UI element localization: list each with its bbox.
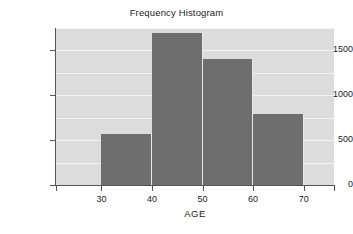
x-axis-end-tick bbox=[56, 185, 57, 191]
x-tick-mark bbox=[304, 185, 305, 191]
x-axis-title: AGE bbox=[56, 208, 334, 219]
x-tick-label: 60 bbox=[233, 194, 273, 204]
y-tick-label: 0 bbox=[311, 179, 353, 189]
gridline-1750 bbox=[56, 28, 334, 29]
y-axis-line bbox=[55, 28, 56, 185]
x-tick-label: 70 bbox=[284, 194, 324, 204]
histogram-screenshot: Frequency Histogram 050010001500 3040506… bbox=[0, 0, 353, 234]
x-tick-label: 30 bbox=[81, 194, 121, 204]
histogram-bar bbox=[253, 114, 304, 185]
x-axis-end-tick bbox=[334, 185, 335, 191]
plot-area bbox=[56, 28, 334, 185]
y-tick-label: 500 bbox=[311, 134, 353, 144]
chart-title: Frequency Histogram bbox=[0, 7, 353, 18]
y-tick-label: 1500 bbox=[311, 44, 353, 54]
x-tick-label: 40 bbox=[132, 194, 172, 204]
x-axis-line bbox=[55, 185, 335, 186]
x-tick-mark bbox=[101, 185, 102, 191]
y-tick-label: 1000 bbox=[311, 89, 353, 99]
x-tick-mark bbox=[152, 185, 153, 191]
y-tick-mark bbox=[50, 50, 56, 51]
histogram-bar bbox=[203, 59, 254, 186]
x-tick-mark bbox=[253, 185, 254, 191]
y-tick-mark bbox=[50, 95, 56, 96]
x-tick-label: 50 bbox=[183, 194, 223, 204]
y-tick-mark bbox=[50, 140, 56, 141]
x-tick-mark bbox=[203, 185, 204, 191]
histogram-bar bbox=[101, 134, 152, 185]
histogram-bar bbox=[152, 33, 203, 186]
